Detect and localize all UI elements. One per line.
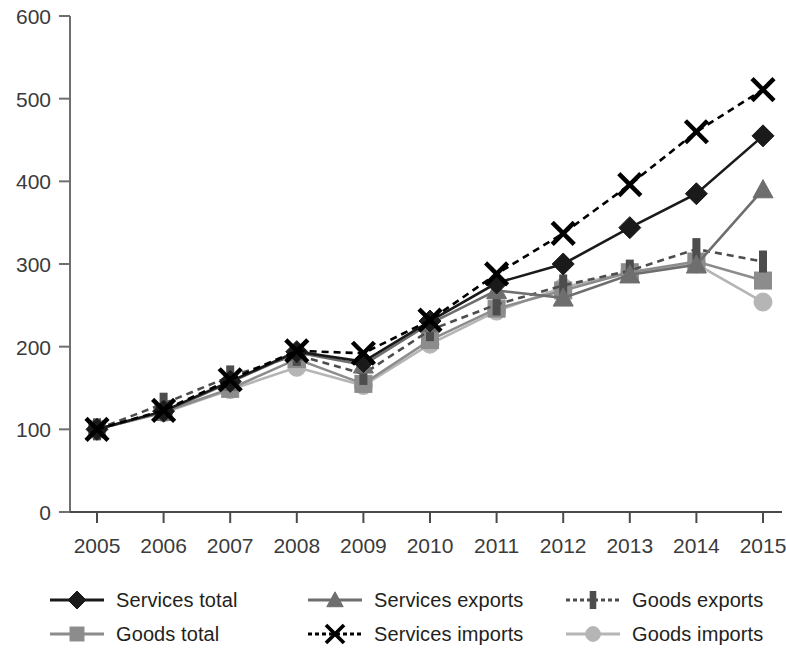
series-marker <box>619 217 641 239</box>
y-axis-tick-label: 600 <box>16 5 51 28</box>
x-axis-tick-label: 2011 <box>474 534 519 557</box>
legend-label-goods-total: Goods total <box>116 623 219 646</box>
y-axis-tick-label: 500 <box>16 88 51 111</box>
chart-legend: Services total Services exports Goods ex… <box>48 583 786 651</box>
legend-item-services-imports[interactable]: Services imports <box>306 621 564 647</box>
legend-marker <box>326 625 344 643</box>
chart-plot-area: 0100200300400500600200520062007200820092… <box>0 0 786 583</box>
y-axis-tick-label: 0 <box>39 501 51 524</box>
legend-label-services-imports: Services imports <box>374 623 523 646</box>
legend-key-goods-imports <box>564 621 622 647</box>
series-marker <box>619 174 641 196</box>
legend-key-services-imports <box>306 621 364 647</box>
legend-item-goods-imports[interactable]: Goods imports <box>564 621 786 647</box>
legend-item-goods-total[interactable]: Goods total <box>48 621 306 647</box>
legend-key-services-total <box>48 587 106 613</box>
x-axis-tick-label: 2008 <box>273 534 320 557</box>
legend-marker <box>70 627 84 641</box>
legend-marker <box>586 627 601 642</box>
series-marker <box>759 251 767 273</box>
x-axis-tick-label: 2009 <box>340 534 387 557</box>
y-axis-tick-label: 300 <box>16 253 51 276</box>
x-axis-tick-label: 2007 <box>207 534 254 557</box>
chart-series-layer <box>86 79 774 441</box>
series-marker <box>552 222 574 244</box>
x-axis-tick-label: 2013 <box>606 534 653 557</box>
series-marker <box>754 293 772 311</box>
x-axis-tick-label: 2012 <box>540 534 587 557</box>
y-axis-tick-label: 400 <box>16 170 51 193</box>
series-marker <box>753 180 773 198</box>
chart-series-goods-total <box>89 253 772 438</box>
chart-tick-labels: 0100200300400500600200520062007200820092… <box>16 5 786 557</box>
chart-series-services-imports <box>86 79 774 441</box>
series-line <box>97 136 763 429</box>
legend-label-services-total: Services total <box>116 589 237 612</box>
y-axis-tick-label: 200 <box>16 336 51 359</box>
x-axis-tick-label: 2006 <box>140 534 187 557</box>
series-marker <box>755 272 772 289</box>
x-axis-tick-label: 2014 <box>673 534 720 557</box>
y-axis-tick-label: 100 <box>16 418 51 441</box>
legend-item-goods-exports[interactable]: Goods exports <box>564 587 786 613</box>
legend-marker <box>68 591 86 609</box>
series-marker <box>552 253 574 275</box>
series-marker <box>685 121 707 143</box>
legend-key-goods-total <box>48 621 106 647</box>
legend-label-goods-imports: Goods imports <box>632 623 763 646</box>
x-axis-tick-label: 2005 <box>74 534 121 557</box>
legend-label-goods-exports: Goods exports <box>632 589 763 612</box>
legend-item-services-exports[interactable]: Services exports <box>306 587 564 613</box>
legend-item-services-total[interactable]: Services total <box>48 587 306 613</box>
x-axis-tick-label: 2015 <box>740 534 786 557</box>
line-chart-figure: 0100200300400500600200520062007200820092… <box>0 0 786 651</box>
legend-key-goods-exports <box>564 587 622 613</box>
legend-marker <box>590 591 597 609</box>
legend-key-services-exports <box>306 587 364 613</box>
series-marker <box>752 79 774 101</box>
x-axis-tick-label: 2010 <box>407 534 454 557</box>
legend-label-services-exports: Services exports <box>374 589 523 612</box>
